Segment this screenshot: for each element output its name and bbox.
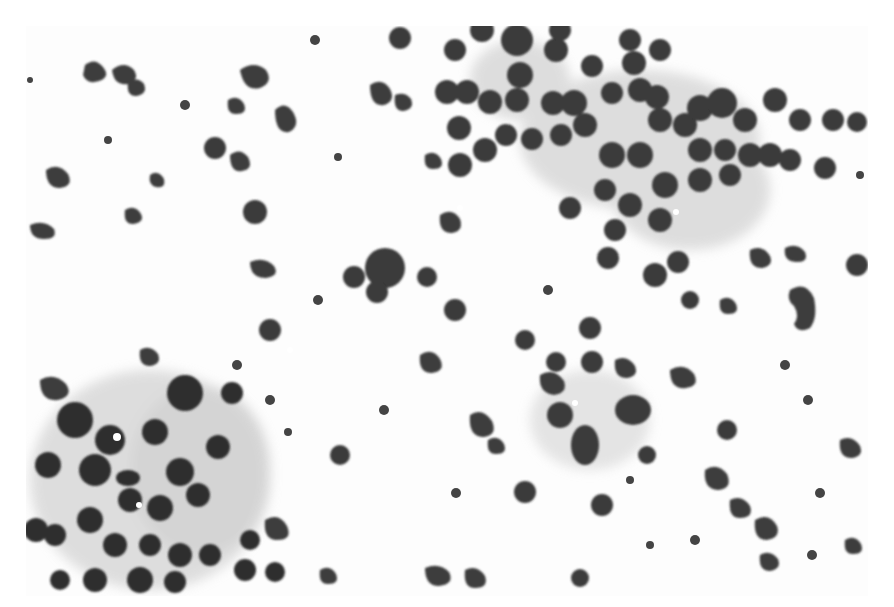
micrograph-image bbox=[26, 26, 868, 596]
cell-field bbox=[26, 26, 868, 596]
